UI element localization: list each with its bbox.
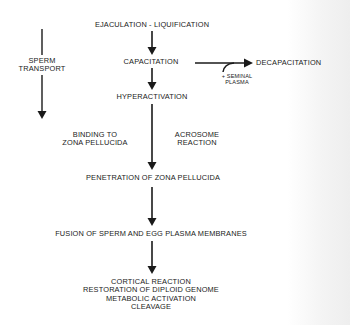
step-decapacitation: DECAPACITATION	[256, 59, 321, 67]
arrow-capacitation-to-hyperactivation	[148, 68, 157, 90]
step-capacitation: CAPACITATION	[124, 58, 179, 66]
step-hyperactivation: HYPERACTIVATION	[117, 93, 188, 101]
arrow-penetration-to-fusion	[148, 187, 157, 226]
acrosome-reaction-label: ACROSOME REACTION	[175, 131, 219, 148]
step-ejaculation-liquification: EJACULATION - LIQUIFICATION	[95, 21, 209, 29]
arrow-capacitation-to-decapacitation	[195, 59, 253, 73]
arrow-hyperactivation-to-penetration	[148, 104, 157, 170]
binding-line-2: ZONA PELLUCIDA	[62, 139, 127, 147]
outcome-cleavage: CLEAVAGE	[83, 303, 219, 311]
arrow-sperm-transport	[38, 29, 47, 119]
seminal-plasma-line-2: PLASMA	[222, 79, 253, 85]
binding-zona-label: BINDING TO ZONA PELLUCIDA	[62, 131, 127, 148]
sperm-transport-line-2: TRANSPORT	[19, 65, 66, 73]
seminal-plasma-label: + SEMINAL PLASMA	[222, 73, 253, 85]
acrosome-line-2: REACTION	[175, 139, 219, 147]
outcomes-block: CORTICAL REACTION RESTORATION OF DIPLOID…	[83, 278, 219, 312]
step-fusion-membranes: FUSION OF SPERM AND EGG PLASMA MEMBRANES	[55, 230, 247, 238]
arrow-fusion-to-outcomes	[148, 241, 157, 274]
step-penetration-zona: PENETRATION OF ZONA PELLUCIDA	[86, 174, 220, 182]
arrow-ejaculation-to-capacitation	[148, 31, 157, 55]
sperm-transport-label: SPERM TRANSPORT	[19, 57, 66, 74]
